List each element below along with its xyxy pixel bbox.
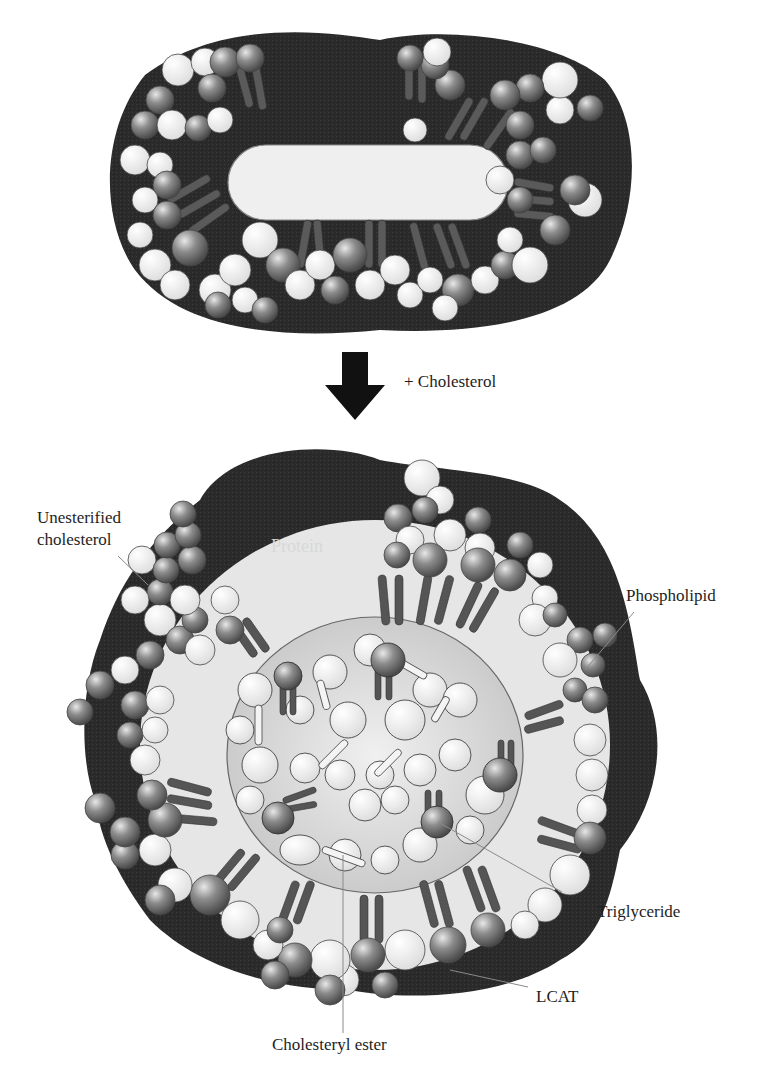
discoidal-particle [110, 32, 632, 333]
cholesteryl-ester-label: Cholesteryl ester [272, 1035, 387, 1055]
unesterified-cholesterol-label-line1: Unesterified [37, 508, 121, 528]
protein-label: Protein [271, 536, 323, 556]
cholesterol-addition-label: + Cholesterol [404, 372, 496, 392]
spherical-particle [67, 449, 657, 1005]
disc-core [228, 145, 508, 220]
unesterified-cholesterol-label-line2: cholesterol [37, 530, 112, 550]
triglyceride-label: Triglyceride [597, 902, 680, 922]
phospholipid-label: Phospholipid [626, 586, 716, 606]
down-arrow-icon [325, 352, 385, 420]
lcat-label: LCAT [536, 987, 579, 1007]
